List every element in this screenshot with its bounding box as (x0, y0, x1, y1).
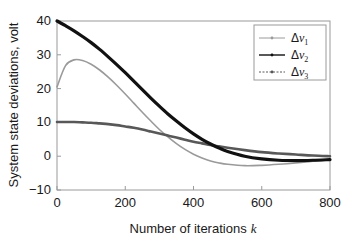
y-tick-label: 0 (44, 148, 51, 163)
y-tick-label: 30 (37, 47, 51, 62)
legend-marker (271, 37, 274, 40)
x-tick-label: 400 (183, 195, 205, 210)
y-tick-label: 40 (37, 13, 51, 28)
x-tick-label: 200 (114, 195, 136, 210)
chart-svg: 0200400600800 −10010203040 Number of ite… (0, 0, 349, 243)
legend-marker (271, 71, 274, 74)
chart-legend[interactable]: Δv1Δv2Δv3 (254, 25, 326, 81)
y-tick-label: −10 (29, 182, 51, 197)
chart-figure: 0200400600800 −10010203040 Number of ite… (0, 0, 349, 243)
y-tick-label: 20 (37, 81, 51, 96)
y-tick-label: 10 (37, 114, 51, 129)
x-axis-title: Number of iterationsk (130, 221, 257, 236)
legend-marker (271, 54, 274, 57)
x-tick-label: 600 (251, 195, 273, 210)
y-axis-title: System state deviations, volt (6, 22, 21, 187)
x-tick-label: 800 (319, 195, 341, 210)
legend-box (254, 25, 326, 80)
x-tick-label: 0 (53, 195, 60, 210)
